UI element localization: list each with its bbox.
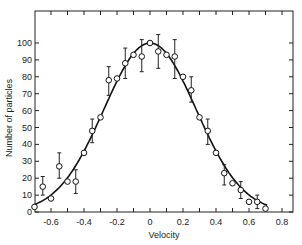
data-point-marker — [122, 60, 128, 66]
data-point-marker — [114, 76, 120, 82]
x-tick-label: 0.4 — [210, 217, 223, 227]
x-tick-label: 0.2 — [177, 217, 190, 227]
data-point-marker — [172, 54, 178, 60]
data-point-marker — [221, 170, 227, 176]
y-tick-label: 60 — [22, 106, 32, 116]
data-point-marker — [98, 115, 104, 121]
data-point-marker — [73, 179, 79, 185]
y-axis-ticks: 0102030405060708090100 — [17, 38, 293, 217]
x-tick-label: -0.6 — [43, 217, 59, 227]
y-tick-label: 90 — [22, 55, 32, 65]
data-point-marker — [164, 52, 170, 58]
data-point-marker — [56, 164, 62, 170]
x-tick-label: -0.2 — [109, 217, 125, 227]
y-tick-label: 80 — [22, 72, 32, 82]
x-axis-label: Velocity — [148, 230, 180, 240]
x-tick-label: 0.8 — [276, 217, 289, 227]
data-point-marker — [155, 49, 161, 55]
data-points — [32, 40, 269, 211]
data-point-marker — [81, 150, 87, 156]
data-point-marker — [197, 115, 203, 121]
data-point-marker — [89, 128, 95, 134]
data-point-marker — [131, 52, 137, 58]
x-tick-label: 0 — [147, 217, 152, 227]
y-tick-label: 0 — [27, 207, 32, 217]
data-point-marker — [180, 74, 186, 80]
x-tick-label: 0.6 — [243, 217, 256, 227]
y-tick-label: 40 — [22, 139, 32, 149]
data-point-marker — [213, 150, 219, 156]
y-axis-label: Number of particles — [4, 78, 14, 157]
data-point-marker — [188, 88, 194, 94]
data-point-marker — [48, 196, 54, 202]
x-tick-label: -0.4 — [76, 217, 92, 227]
data-point-marker — [254, 199, 260, 205]
y-tick-label: 20 — [22, 173, 32, 183]
y-tick-label: 50 — [22, 123, 32, 133]
data-point-marker — [65, 179, 71, 185]
data-point-marker — [263, 206, 269, 212]
data-point-marker — [205, 128, 211, 134]
x-axis-ticks: -0.6-0.4-0.200.20.40.60.8 — [43, 11, 288, 227]
y-tick-label: 100 — [17, 38, 32, 48]
y-tick-label: 10 — [22, 190, 32, 200]
y-tick-label: 70 — [22, 89, 32, 99]
data-point-marker — [246, 199, 252, 205]
data-point-marker — [230, 180, 236, 186]
data-point-marker — [147, 40, 153, 46]
data-point-marker — [32, 204, 38, 210]
y-tick-label: 30 — [22, 156, 32, 166]
velocity-distribution-chart: -0.6-0.4-0.200.20.40.60.8 01020304050607… — [0, 0, 302, 245]
data-point-marker — [238, 187, 244, 193]
data-point-marker — [139, 54, 145, 60]
data-point-marker — [40, 184, 46, 190]
data-point-marker — [106, 77, 112, 83]
